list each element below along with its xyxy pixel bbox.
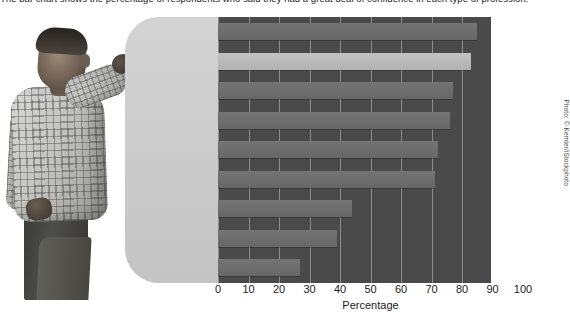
bar-military-officers <box>218 141 438 158</box>
x-tick-40: 40 <box>334 283 346 295</box>
x-axis-ticks: 0102030405060708090100 <box>218 283 538 299</box>
x-tick-60: 60 <box>395 283 407 295</box>
bar-lawyers <box>218 259 300 276</box>
figure-caption: The bar chart shows the percentage of re… <box>0 0 570 7</box>
x-tick-100: 100 <box>514 283 532 295</box>
x-tick-90: 90 <box>486 283 498 295</box>
photo-ear <box>80 54 90 68</box>
bar-row: Military officers <box>218 135 491 165</box>
bar-journalists <box>218 230 337 247</box>
bar-teachers <box>218 53 471 70</box>
x-tick-80: 80 <box>456 283 468 295</box>
bar-row: TV newscasters <box>218 194 491 224</box>
bar-rows: DoctorsTeachersScientistsPolice officers… <box>218 17 491 283</box>
chart-panel: DoctorsTeachersScientistsPolice officers… <box>125 17 491 283</box>
photo-hair <box>35 26 89 56</box>
bar-doctors <box>218 23 477 40</box>
bar-judges <box>218 171 435 188</box>
bar-police-officers <box>218 112 450 129</box>
x-tick-50: 50 <box>364 283 376 295</box>
bar-row: Teachers <box>218 47 491 77</box>
x-tick-0: 0 <box>215 283 221 295</box>
x-axis-label: Percentage <box>218 299 523 311</box>
presenter-photo <box>2 12 126 300</box>
bar-row: Judges <box>218 165 491 195</box>
x-tick-10: 10 <box>242 283 254 295</box>
photo-credit: Photo: © Kemter/iStockphoto <box>563 99 570 186</box>
x-tick-30: 30 <box>303 283 315 295</box>
plot-area: DoctorsTeachersScientistsPolice officers… <box>218 17 491 283</box>
photo-checked-shirt <box>10 84 109 222</box>
x-tick-20: 20 <box>273 283 285 295</box>
bar-row: Police officers <box>218 106 491 136</box>
bar-row: Doctors <box>218 17 491 47</box>
bar-row: Lawyers <box>218 253 491 283</box>
bar-row: Scientists <box>218 76 491 106</box>
photo-trousers-highlight <box>36 237 91 300</box>
bar-scientists <box>218 82 453 99</box>
bar-tv-newscasters <box>218 200 352 217</box>
bar-row: Journalists <box>218 224 491 254</box>
bar-chart-figure: The bar chart shows the percentage of re… <box>0 0 570 317</box>
x-tick-70: 70 <box>425 283 437 295</box>
